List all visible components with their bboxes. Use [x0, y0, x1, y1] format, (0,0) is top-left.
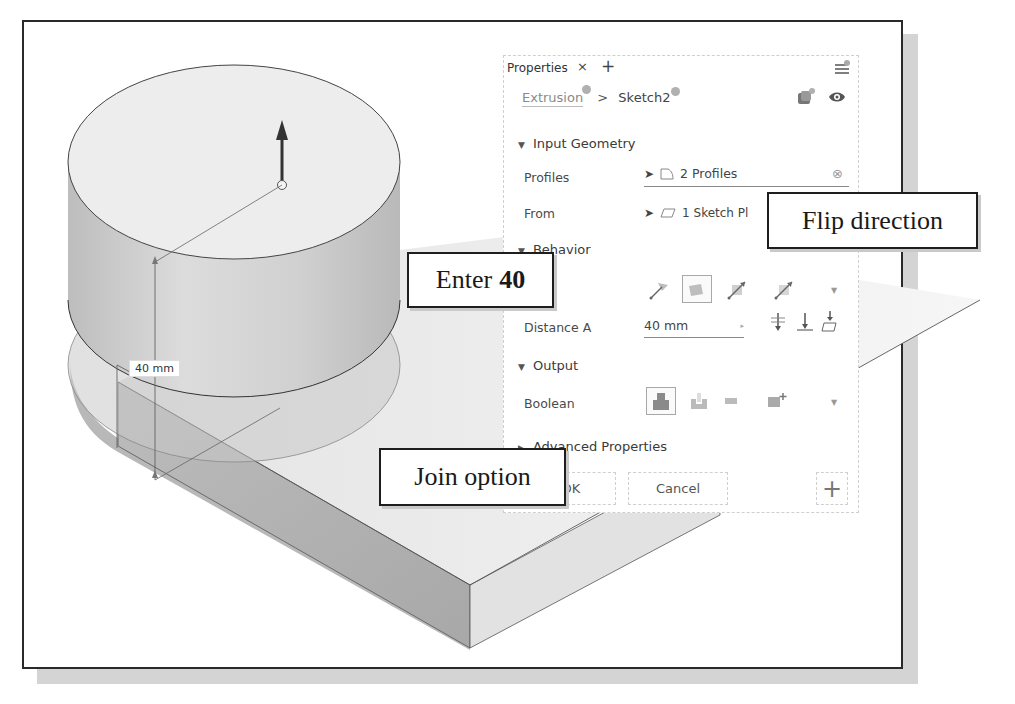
- section-title: Output: [533, 358, 578, 373]
- section-output[interactable]: ▼Output: [518, 358, 578, 373]
- new-body-icon: [766, 391, 788, 411]
- select-cursor-icon: ➤: [644, 206, 654, 220]
- profiles-field[interactable]: ➤ 2 Profiles ⊗: [644, 166, 849, 187]
- profile-icon: [660, 168, 674, 180]
- collapse-triangle-icon: ▼: [518, 362, 525, 372]
- properties-panel: Properties × + Extrusion > Sketch2 ▼Inpu…: [503, 55, 859, 513]
- direction-symmetric-button[interactable]: [722, 276, 752, 304]
- callout-enter-text: Enter: [436, 265, 492, 295]
- collapse-triangle-icon: ▼: [518, 140, 525, 150]
- profiles-label: Profiles: [524, 170, 569, 185]
- section-title: Input Geometry: [533, 136, 636, 151]
- intersect-icon: [723, 395, 739, 407]
- breadcrumb-separator: >: [597, 90, 608, 105]
- callout-flip-direction: Flip direction: [767, 192, 978, 249]
- cut-icon: [689, 391, 709, 411]
- from-field[interactable]: ➤ 1 Sketch Pl: [644, 206, 748, 220]
- breadcrumb-extrusion[interactable]: Extrusion: [522, 90, 583, 107]
- body-icon[interactable]: [796, 88, 816, 106]
- cancel-button[interactable]: Cancel: [628, 472, 728, 505]
- tab-close-icon[interactable]: ×: [577, 59, 588, 74]
- extent-to-object-icon[interactable]: [796, 312, 814, 332]
- symmetric-icon: [726, 279, 748, 301]
- extent-all-icon[interactable]: [821, 310, 839, 332]
- distance-a-label: Distance A: [524, 320, 591, 335]
- panel-tabbar: Properties × +: [504, 56, 858, 82]
- callout-enter-value: 40: [499, 265, 525, 295]
- callout-join-option: Join option: [379, 448, 566, 506]
- one-side-icon: [648, 279, 670, 301]
- flip-direction-button[interactable]: [682, 275, 712, 303]
- from-value: 1 Sketch Pl: [682, 206, 748, 220]
- from-label: From: [524, 206, 555, 221]
- boolean-label: Boolean: [524, 396, 575, 411]
- boolean-dropdown-icon[interactable]: ▼: [831, 398, 837, 407]
- boolean-intersect-button[interactable]: [716, 387, 746, 415]
- extent-distance-icon[interactable]: [769, 312, 787, 332]
- tab-add-icon[interactable]: +: [601, 56, 615, 76]
- callout-join-text: Join option: [414, 462, 530, 492]
- section-input-geometry[interactable]: ▼Input Geometry: [518, 136, 636, 151]
- status-dot: [582, 85, 591, 94]
- join-icon: [651, 391, 671, 411]
- two-sides-icon: [773, 279, 795, 301]
- sketch-plane-icon: [660, 208, 676, 218]
- boolean-new-body-button[interactable]: [762, 387, 792, 415]
- boolean-cut-button[interactable]: [684, 387, 714, 415]
- distance-stepper-icon[interactable]: ▸: [740, 322, 744, 330]
- distance-a-input[interactable]: 40 mm ▸: [644, 318, 744, 338]
- distance-a-value[interactable]: 40 mm: [644, 318, 688, 333]
- panel-menu-icon[interactable]: [834, 60, 850, 76]
- callout-enter-40: Enter40: [407, 252, 554, 308]
- add-button[interactable]: +: [816, 472, 848, 505]
- direction-one-side-button[interactable]: [644, 276, 674, 304]
- header-icons: [796, 88, 846, 106]
- flip-direction-icon: [687, 280, 707, 298]
- breadcrumb-sketch[interactable]: Sketch2: [618, 90, 670, 105]
- breadcrumb: Extrusion > Sketch2: [522, 90, 670, 105]
- tab-properties[interactable]: Properties: [507, 61, 568, 75]
- status-dot: [671, 87, 680, 96]
- boolean-join-button[interactable]: [646, 387, 676, 415]
- clear-selection-icon[interactable]: ⊗: [832, 166, 843, 181]
- direction-dropdown-icon[interactable]: ▼: [831, 286, 837, 295]
- callout-flip-text: Flip direction: [802, 206, 943, 236]
- select-cursor-icon: ➤: [644, 167, 654, 181]
- dimension-label[interactable]: 40 mm: [129, 360, 180, 377]
- direction-two-sides-button[interactable]: [769, 276, 799, 304]
- eye-icon[interactable]: [828, 90, 846, 104]
- profiles-value: 2 Profiles: [680, 166, 737, 181]
